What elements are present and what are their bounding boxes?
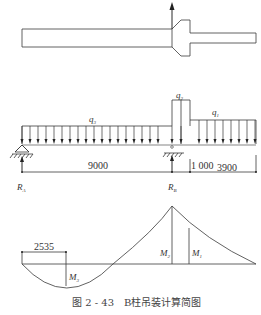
moment-m1: M1 bbox=[191, 248, 202, 259]
up-arrow-icon bbox=[170, 2, 175, 29]
label-q3: q3 bbox=[89, 114, 97, 125]
load-arrows bbox=[21, 120, 257, 145]
span-bc: 1 000 bbox=[191, 160, 214, 171]
reaction-rb: RB bbox=[167, 182, 177, 193]
pin-support-a bbox=[10, 145, 33, 171]
label-q1: q1 bbox=[212, 107, 219, 118]
dimension-2535: 2535 bbox=[34, 241, 54, 252]
column-lifting-diagram: q3 q2 q1 bbox=[0, 0, 261, 315]
span-ab: 9000 bbox=[88, 160, 108, 171]
figure-caption: 图 2 - 43B柱吊装计算简图 bbox=[72, 296, 201, 308]
roller-support-b bbox=[163, 146, 184, 172]
moment-diagram bbox=[21, 206, 256, 288]
span-cd: 3900 bbox=[217, 162, 237, 173]
reaction-ra: RA bbox=[16, 182, 27, 193]
column-outline bbox=[22, 20, 256, 56]
label-q2: q2 bbox=[176, 90, 184, 101]
moment-m3: M3 bbox=[68, 272, 80, 283]
moment-m2: M2 bbox=[159, 248, 171, 259]
